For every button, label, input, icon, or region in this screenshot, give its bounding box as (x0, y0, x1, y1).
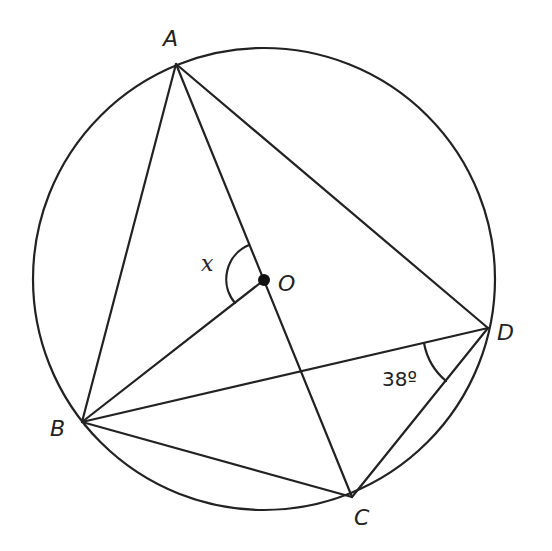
segment-ad (176, 64, 488, 328)
angle-arc-38 (424, 343, 446, 381)
point-label-o: O (278, 271, 295, 296)
point-label-a: A (161, 26, 178, 51)
angle-label-38: 38º (382, 367, 417, 391)
angle-label-x: x (201, 251, 214, 276)
point-label-c: C (354, 505, 370, 530)
point-label-d: D (497, 320, 514, 345)
segment-cd (352, 328, 488, 497)
segment-ab (82, 64, 176, 422)
circle-diagram: A B C D O x 38º (0, 0, 552, 551)
center-point-o (258, 274, 270, 286)
point-label-b: B (50, 416, 65, 441)
segment-bc (82, 422, 352, 497)
